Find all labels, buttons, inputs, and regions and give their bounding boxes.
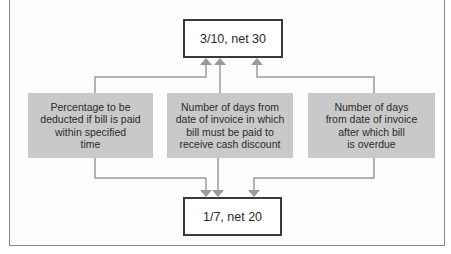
credit-terms-box-bottom: 1/7, net 20: [183, 197, 282, 236]
explanation-text: Number of days from date of invoice afte…: [326, 101, 418, 151]
connector-percentage-to-bottom: [95, 158, 206, 190]
arrow-down-icon: [248, 190, 260, 197]
explanation-box-percentage: Percentage to be deducted if bill is pai…: [28, 93, 153, 158]
arrow-up-icon: [251, 58, 263, 65]
arrow-up-icon: [200, 58, 212, 65]
explanation-text: Number of days from date of invoice in w…: [176, 101, 285, 151]
credit-terms-label: 1/7, net 20: [203, 210, 262, 224]
connector-net-days-to-bottom: [254, 158, 374, 190]
explanation-box-net-days: Number of days from date of invoice afte…: [308, 93, 435, 158]
credit-terms-label: 3/10, net 30: [200, 32, 266, 46]
arrow-up-icon: [214, 58, 226, 65]
explanation-text: Percentage to be deducted if bill is pai…: [40, 101, 140, 151]
explanation-box-discount-days: Number of days from date of invoice in w…: [167, 93, 293, 158]
arrow-down-icon: [200, 190, 212, 197]
connector-net-days-to-top: [257, 64, 374, 93]
arrow-down-icon: [212, 190, 224, 197]
connector-percentage-to-top: [95, 64, 206, 93]
credit-terms-box-top: 3/10, net 30: [183, 19, 283, 58]
